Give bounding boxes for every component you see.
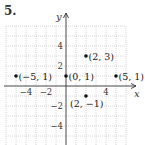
point-marker-icon bbox=[14, 74, 18, 78]
point-label: (5, 1) bbox=[119, 71, 145, 82]
point-marker-icon bbox=[64, 74, 68, 78]
y-tick-label: 2 bbox=[58, 61, 63, 71]
data-points: (−5, 1)(0, 1)(2, 3)(5, 1)(2, −1) bbox=[14, 51, 144, 110]
x-tick-label: 4 bbox=[103, 87, 108, 97]
point-label: (−5, 1) bbox=[19, 71, 53, 82]
data-point: (5, 1) bbox=[114, 71, 144, 82]
x-axis-label: x bbox=[134, 88, 140, 99]
y-tick-label: 4 bbox=[58, 41, 63, 51]
data-point: (−5, 1) bbox=[14, 71, 52, 82]
y-tick-label: −4 bbox=[50, 121, 63, 131]
data-point: (0, 1) bbox=[64, 71, 94, 82]
y-axis-label: y bbox=[55, 11, 62, 22]
coordinate-plane: xy −4−2442−2−4 (−5, 1)(0, 1)(2, 3)(5, 1)… bbox=[0, 0, 144, 145]
y-tick-label: −2 bbox=[50, 101, 63, 111]
x-tick-label: −2 bbox=[40, 87, 53, 97]
x-tick-label: −4 bbox=[20, 87, 33, 97]
point-marker-icon bbox=[114, 74, 118, 78]
point-label: (0, 1) bbox=[69, 71, 95, 82]
point-marker-icon bbox=[84, 54, 88, 58]
data-point: (2, −1) bbox=[70, 94, 104, 109]
data-point: (2, 3) bbox=[84, 51, 114, 62]
point-label: (2, 3) bbox=[89, 51, 115, 62]
point-label: (2, −1) bbox=[70, 98, 104, 109]
